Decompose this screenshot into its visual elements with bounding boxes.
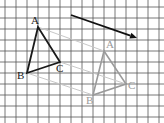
original-label-b: B bbox=[17, 69, 24, 81]
arrowhead-icon bbox=[129, 33, 137, 39]
image-label-b: B bbox=[86, 94, 93, 106]
original-label-a: A bbox=[31, 14, 39, 26]
original-label-c: C bbox=[56, 62, 63, 74]
image-label-c: C bbox=[128, 79, 135, 91]
image-label-a: A bbox=[106, 38, 114, 50]
original-triangle: A B C bbox=[17, 14, 63, 81]
image-triangle: A B C bbox=[86, 38, 135, 106]
translation-diagram: A B C A B C bbox=[0, 0, 164, 123]
